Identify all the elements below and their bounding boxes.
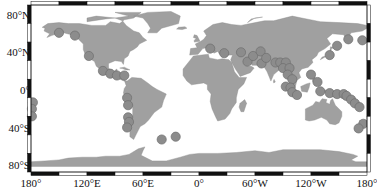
- longitude-label: 60°W: [242, 178, 268, 189]
- event-marker: [325, 51, 334, 60]
- frame-right-segment: [367, 5, 371, 24]
- longitude-label: 120°E: [73, 178, 101, 189]
- event-marker: [123, 123, 132, 132]
- latitude-label: 40°N: [7, 47, 30, 58]
- frame-right-segment: [367, 135, 371, 154]
- latitude-label: 40°S: [8, 123, 30, 134]
- frame-top-segment: [311, 2, 339, 6]
- event-marker: [358, 36, 367, 45]
- event-marker: [292, 90, 301, 99]
- event-marker: [70, 31, 79, 40]
- frame-left-segment: [28, 98, 32, 117]
- frame-bottom-segment: [171, 172, 199, 176]
- frame-top-segment: [31, 2, 59, 6]
- event-marker: [236, 48, 245, 57]
- event-marker: [288, 75, 297, 84]
- frame-bottom-segment: [59, 172, 87, 176]
- australia: [305, 99, 341, 125]
- frame-bottom-segment: [31, 172, 59, 176]
- frame-top-segment: [87, 2, 115, 6]
- frame-right-segment: [367, 42, 371, 61]
- frame-right-segment: [367, 24, 371, 43]
- frame-right-segment: [367, 98, 371, 117]
- event-marker: [313, 77, 322, 86]
- frame-left-segment: [28, 135, 32, 154]
- uk: [193, 35, 200, 42]
- event-marker: [333, 41, 342, 50]
- frame-bottom-segment: [311, 172, 339, 176]
- longitude-label: 0°: [194, 178, 204, 189]
- caribbean-cuba: [120, 67, 130, 70]
- event-marker: [84, 51, 93, 60]
- frame-top-segment: [199, 2, 227, 6]
- longitude-label: 180°: [357, 178, 377, 189]
- frame-bottom-segment: [227, 172, 255, 176]
- event-marker: [262, 53, 271, 62]
- event-marker: [157, 135, 166, 144]
- frame-bottom-segment: [115, 172, 143, 176]
- event-marker: [220, 49, 229, 58]
- frame-bottom-segment: [283, 172, 311, 176]
- north-america: [42, 12, 147, 81]
- frame-top-segment: [339, 2, 367, 6]
- antarctica: [31, 147, 367, 167]
- iceland: [177, 27, 187, 30]
- frame-right-segment: [367, 61, 371, 80]
- event-marker: [344, 35, 353, 44]
- longitude-label: 60°E: [132, 178, 154, 189]
- event-marker: [120, 71, 129, 80]
- borneo: [301, 83, 310, 92]
- frame-bottom-segment: [143, 172, 171, 176]
- event-marker: [54, 28, 63, 37]
- madagascar: [239, 100, 247, 112]
- latitude-label: 80°S: [8, 160, 30, 171]
- frame-top-segment: [227, 2, 255, 6]
- event-marker: [354, 124, 363, 133]
- frame-bottom-segment: [339, 172, 367, 176]
- frame-left-segment: [28, 24, 32, 43]
- greenland: [134, 12, 181, 33]
- frame-top-segment: [171, 2, 199, 6]
- arctic-isles: [87, 16, 115, 22]
- event-marker: [355, 103, 364, 112]
- frame-top-segment: [143, 2, 171, 6]
- frame-right-segment: [367, 153, 371, 172]
- frame-top-segment: [59, 2, 87, 6]
- frame-right-segment: [367, 79, 371, 98]
- event-marker: [316, 87, 325, 96]
- event-marker: [171, 132, 180, 141]
- frame-bottom-segment: [255, 172, 283, 176]
- longitude-label: 120°W: [295, 178, 326, 189]
- event-marker: [124, 101, 133, 110]
- frame-left-segment: [28, 61, 32, 80]
- latitude-label: 80°N: [7, 10, 30, 21]
- frame-bottom-segment: [199, 172, 227, 176]
- frame-right-segment: [367, 116, 371, 135]
- event-marker: [206, 44, 215, 53]
- frame-top-segment: [115, 2, 143, 6]
- sri-lanka: [273, 79, 275, 83]
- frame-bottom-segment: [87, 172, 115, 176]
- frame-top-segment: [255, 2, 283, 6]
- event-marker: [306, 70, 315, 79]
- latitude-label: 0°: [20, 85, 30, 96]
- frame-top-segment: [283, 2, 311, 6]
- longitude-label: 180°: [21, 178, 42, 189]
